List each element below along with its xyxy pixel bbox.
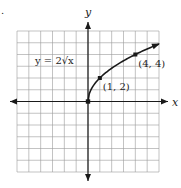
y-axis-label: y xyxy=(84,6,92,19)
point-label: (4, 4) xyxy=(138,58,165,69)
chart: . (1, 2)(4, 4) x y y = 2√x xyxy=(0,0,181,188)
x-axis-label: x xyxy=(172,96,179,109)
series xyxy=(88,44,160,102)
problem-marker: . xyxy=(1,5,4,16)
x-axis-arrow-right xyxy=(161,99,168,105)
x-axis-arrow-left xyxy=(10,99,17,105)
equation-label: y = 2√x xyxy=(34,55,74,66)
point-label: (1, 2) xyxy=(103,81,130,92)
point-origin xyxy=(86,99,90,103)
y-axis-arrow-down xyxy=(85,174,91,181)
y-axis-arrow-up xyxy=(85,22,91,29)
point-marker xyxy=(133,53,137,57)
curve-end-arrow xyxy=(151,44,160,50)
point-marker xyxy=(98,76,102,80)
